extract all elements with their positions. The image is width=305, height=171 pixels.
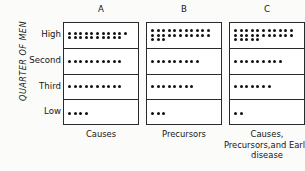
dot-marker [190,29,193,32]
dot-marker [196,29,199,32]
dot-marker [85,32,88,35]
dot-row [151,60,219,63]
dot-cell [64,23,138,49]
dot-cell [230,75,304,101]
dot-cell [147,75,221,101]
dot-marker [251,34,254,37]
dot-marker [168,34,171,37]
dot-marker [173,29,176,32]
dot-marker [273,34,276,37]
dot-marker [168,60,171,63]
dot-marker [68,85,71,88]
dot-row [151,34,219,37]
dot-marker [256,85,259,88]
dot-marker [290,34,293,37]
dot-marker [151,60,154,63]
dot-marker [179,29,182,32]
dot-marker [74,60,77,63]
dot-marker [102,60,105,63]
dot-marker [68,36,71,39]
dot-marker [196,34,199,37]
dot-marker [157,85,160,88]
dot-marker [107,60,110,63]
dot-marker [190,60,193,63]
dot-marker [201,29,204,32]
dot-marker [251,60,254,63]
dot-marker [96,85,99,88]
dot-marker [284,29,287,32]
dot-marker [240,29,243,32]
dot-marker [268,85,271,88]
dot-group [68,75,136,100]
dot-marker [118,85,121,88]
dot-marker [240,38,243,41]
dot-marker [96,32,99,35]
dot-marker [245,34,248,37]
dot-marker [234,60,237,63]
row-label-low: Low [44,99,61,125]
dot-marker [273,60,276,63]
dot-marker [234,34,237,37]
dot-marker [157,38,160,41]
dot-marker [173,85,176,88]
dot-row [68,60,136,63]
dot-marker [268,60,271,63]
dot-marker [85,85,88,88]
dot-cell [230,23,304,49]
dot-marker [113,36,116,39]
dot-row [234,38,302,41]
column-header-c: C [229,4,305,14]
dot-marker [79,112,82,115]
dot-marker [79,36,82,39]
dot-marker [79,60,82,63]
dot-marker [207,29,210,32]
dot-marker [85,36,88,39]
dot-row [151,85,219,88]
dot-group [151,75,219,100]
dot-marker [240,60,243,63]
dot-marker [179,34,182,37]
dot-marker [256,34,259,37]
dot-row [151,38,219,41]
dot-marker [90,32,93,35]
dot-marker [262,29,265,32]
dot-marker [157,112,160,115]
dot-marker [151,85,154,88]
dot-marker [245,38,248,41]
dot-group [234,23,302,48]
dot-marker [279,60,282,63]
dot-marker [179,85,182,88]
dot-marker [245,29,248,32]
dot-marker [102,36,105,39]
dot-marker [185,29,188,32]
dot-marker [118,32,121,35]
dot-marker [74,36,77,39]
dot-marker [162,29,165,32]
dot-cell [230,49,304,75]
dot-marker [268,29,271,32]
dot-marker [113,85,116,88]
dot-group [234,75,302,100]
dot-row [68,32,136,35]
dot-marker [74,85,77,88]
dot-marker [262,34,265,37]
dot-row [68,36,136,39]
dot-marker [245,60,248,63]
dot-marker [162,85,165,88]
dot-cell [230,100,304,126]
column-footer-c: Causes, Precursors,and Early disease [223,129,305,161]
dot-marker [68,60,71,63]
column-footer-a: Causes [57,129,145,140]
panel-a [63,22,139,125]
dot-marker [151,112,154,115]
dot-marker [185,34,188,37]
dot-marker [190,34,193,37]
dot-marker [162,34,165,37]
dot-row [151,112,219,115]
dot-marker [68,32,71,35]
dot-marker [124,32,127,35]
dot-marker [96,60,99,63]
dot-marker [162,38,165,41]
dot-marker [245,85,248,88]
dot-marker [234,38,237,41]
